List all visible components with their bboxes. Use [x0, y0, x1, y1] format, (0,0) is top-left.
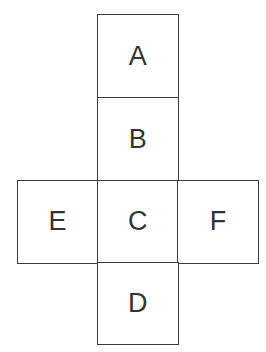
- net-cell-e: E: [17, 180, 99, 264]
- cell-label-e: E: [48, 208, 66, 235]
- net-cell-c: C: [97, 180, 179, 264]
- net-cell-d: D: [97, 262, 179, 345]
- net-cell-a: A: [97, 14, 179, 99]
- cell-label-d: D: [128, 290, 148, 317]
- cell-label-b: B: [129, 126, 147, 153]
- net-cell-b: B: [97, 97, 179, 182]
- cell-label-a: A: [129, 43, 147, 70]
- net-cell-f: F: [177, 180, 259, 264]
- cell-label-f: F: [210, 208, 227, 235]
- cube-net-figure: A B E C F D: [0, 0, 266, 352]
- cell-label-c: C: [128, 208, 148, 235]
